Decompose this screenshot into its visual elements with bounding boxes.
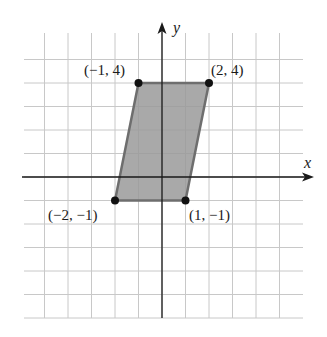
vertex-dot: [182, 197, 190, 205]
vertex-label-2-4: (2, 4): [211, 62, 244, 79]
coordinate-plane: x y (−1, 4) (2, 4) (1, −1) (−2, −1): [0, 0, 327, 337]
vertex-dot: [111, 197, 119, 205]
vertex-label-neg2-neg1: (−2, −1): [48, 207, 97, 224]
y-axis-label: y: [171, 19, 181, 37]
vertex-dot: [135, 79, 143, 87]
vertex-label-neg1-4: (−1, 4): [84, 62, 125, 79]
vertex-label-1-neg1: (1, −1): [189, 207, 230, 224]
x-axis-label: x: [303, 154, 311, 171]
vertex-dot: [205, 79, 213, 87]
